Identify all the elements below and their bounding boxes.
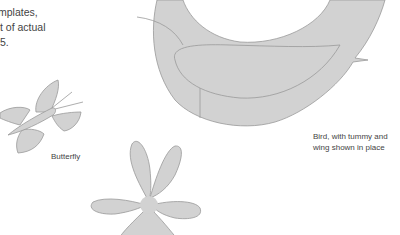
flower-petal-4 (91, 199, 146, 214)
flower-shape (130, 141, 151, 200)
butterfly-right-wing (52, 112, 81, 131)
flower-petal-2 (150, 146, 181, 198)
bird-template (137, 0, 385, 126)
flower-template (91, 141, 200, 235)
flower-petal-3 (152, 202, 201, 219)
bird-caption-line-1: Bird, with tummy and (313, 131, 388, 142)
flower-center (140, 196, 158, 214)
butterfly-template (0, 80, 83, 153)
bird-caption-line-2: wing shown in place (313, 142, 388, 153)
butterfly-upper-wing (36, 80, 59, 112)
butterfly-lower-wing (17, 129, 44, 153)
butterfly-caption: Butterfly (51, 151, 80, 162)
butterfly-antenna-2 (55, 102, 83, 109)
bird-caption: Bird, with tummy and wing shown in place (313, 131, 388, 153)
templates-illustration (0, 0, 400, 235)
